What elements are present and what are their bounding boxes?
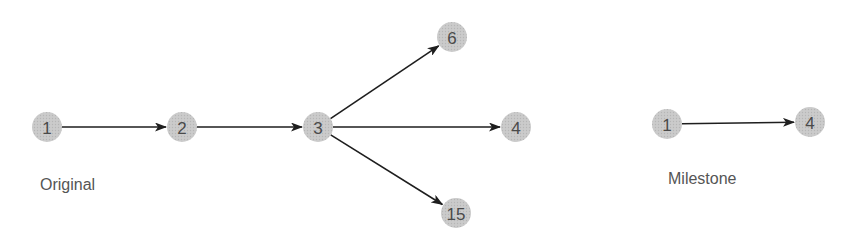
- node-milestone-1: 1: [652, 109, 682, 139]
- node-milestone-4: 4: [795, 107, 825, 137]
- node-label: 1: [42, 119, 51, 138]
- caption-milestone: Milestone: [668, 170, 737, 187]
- node-original-4: 4: [501, 112, 531, 142]
- node-label: 3: [313, 119, 322, 138]
- node-label: 2: [177, 119, 186, 138]
- node-label: 15: [447, 205, 466, 224]
- node-label: 4: [805, 114, 814, 133]
- node-original-1: 1: [32, 112, 62, 142]
- network-diagram: 123641514 OriginalMilestone: [0, 0, 852, 240]
- caption-original: Original: [40, 176, 95, 193]
- node-original-2: 2: [167, 112, 197, 142]
- node-original-15: 15: [441, 198, 471, 228]
- node-original-6: 6: [437, 22, 467, 52]
- edge-arrow-milestone-1-to-4: [682, 122, 794, 124]
- edge-arrow-original-3-to-6: [331, 46, 439, 119]
- node-label: 4: [511, 119, 520, 138]
- node-original-3: 3: [303, 112, 333, 142]
- node-label: 6: [447, 29, 456, 48]
- captions-layer: OriginalMilestone: [40, 170, 737, 193]
- edge-arrow-original-3-to-15: [331, 135, 443, 205]
- node-label: 1: [662, 116, 671, 135]
